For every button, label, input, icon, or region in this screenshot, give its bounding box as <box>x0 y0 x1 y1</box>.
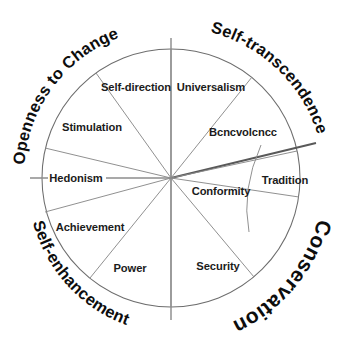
circumplex-svg: Openness to Change Self-transcendence Co… <box>0 0 339 345</box>
value-label-stimulation: Stimulation <box>62 121 122 133</box>
value-circumplex-figure: Openness to Change Self-transcendence Co… <box>0 0 339 345</box>
value-label-hedonism-overlay: Hedonism <box>49 172 102 184</box>
value-label-achievement: Achievement <box>56 221 125 233</box>
value-label-tradition: Tradition <box>262 174 309 186</box>
value-label-security: Security <box>196 260 240 272</box>
value-label-benevolence: Bcncvolcncc <box>209 126 277 138</box>
value-label-conformity: Conformity <box>192 185 252 197</box>
figure-caption-strip <box>0 317 339 345</box>
value-label-self-direction: Self-direction <box>101 81 171 93</box>
value-label-power: Power <box>113 262 147 274</box>
value-label-universalism: Universalism <box>177 81 246 93</box>
